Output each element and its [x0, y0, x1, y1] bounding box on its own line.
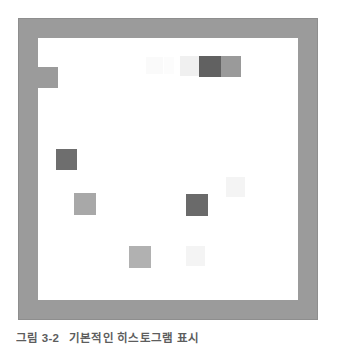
left-edge-tab [38, 67, 58, 88]
grid-cell-dark-left-mid [56, 149, 77, 170]
grid-cell-faint-top-mid [164, 57, 174, 74]
grid-cell-faint-top-left-of-pair [146, 57, 163, 74]
grid-cell-faint-right-mid [226, 177, 245, 197]
grid-cell-dark-center [186, 194, 208, 216]
grid-cell-mid-bottom-center [129, 246, 151, 268]
grid-cell-faint-bottom-center [186, 246, 205, 266]
grid-cell-mid-top-far-right [221, 56, 241, 77]
white-plot-area [38, 38, 298, 300]
figure-caption-text: 기본적인 히스토그램 표시 [69, 332, 199, 344]
grid-cell-pale-top-right [180, 56, 199, 76]
figure-root: 그림 3-2기본적인 히스토그램 표시 [0, 0, 337, 345]
grid-cell-mid-left-lower [74, 193, 96, 215]
grid-cell-dark-top-right [199, 56, 221, 77]
figure-caption: 그림 3-2기본적인 히스토그램 표시 [16, 331, 326, 345]
figure-caption-label: 그림 3-2 [16, 332, 59, 344]
